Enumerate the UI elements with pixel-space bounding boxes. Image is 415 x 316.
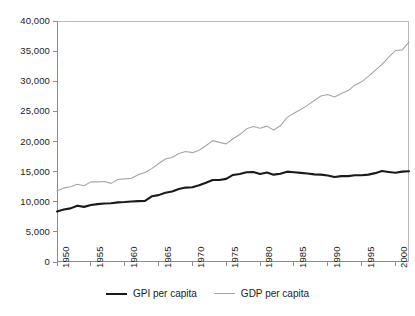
legend-item-gpi: GPI per capita	[106, 288, 197, 299]
x-axis-tick-label: 1955	[95, 246, 105, 268]
chart-figure: 40,00035,00030,00025,00020,00015,00010,0…	[0, 0, 415, 316]
chart-legend: GPI per capita GDP per capita	[0, 288, 415, 299]
legend-item-gdp: GDP per capita	[214, 288, 309, 299]
x-axis-tick-label: 1980	[264, 246, 274, 268]
x-axis-tick-label: 1960	[129, 246, 139, 268]
x-axis-tick-label: 1985	[298, 246, 308, 268]
x-axis-tick-label: 1950	[61, 246, 71, 268]
legend-label-gdp: GDP per capita	[241, 288, 309, 299]
x-axis-tick-label: 1965	[163, 246, 173, 268]
x-axis: 1950195519601965197019751980198519901995…	[0, 0, 415, 316]
x-axis-tick-label: 1975	[230, 246, 240, 268]
x-axis-tick-label: 1995	[366, 246, 376, 268]
legend-label-gpi: GPI per capita	[133, 288, 197, 299]
legend-line-gpi-icon	[106, 293, 127, 295]
x-axis-tick-label: 1990	[332, 246, 342, 268]
x-axis-tick-label: 1970	[196, 246, 206, 268]
legend-line-gdp-icon	[214, 293, 235, 294]
x-axis-tick-label: 2000	[399, 246, 409, 268]
